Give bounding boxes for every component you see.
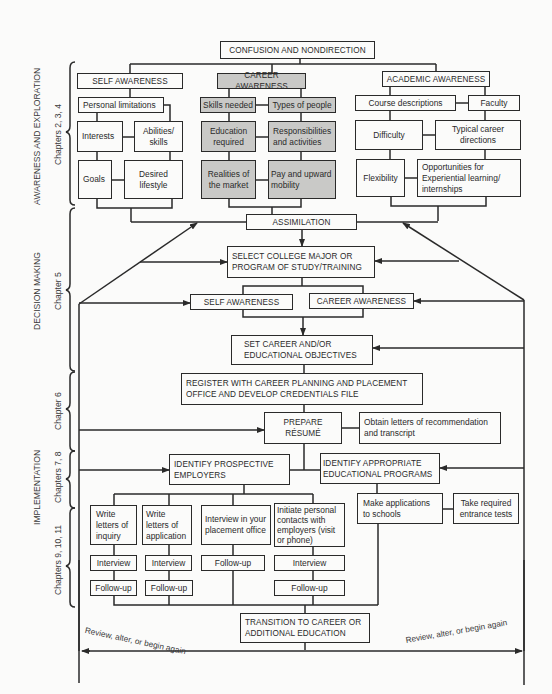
chapter-label-7-8: Chapters 7, 8 bbox=[53, 451, 63, 503]
abilities-box: Abilities/ skills bbox=[134, 121, 183, 152]
phase-label-implementation: IMPLEMENTATION bbox=[32, 450, 42, 525]
typical-career-box: Typical career directions bbox=[435, 120, 521, 150]
interview-box-1: Interview bbox=[90, 555, 137, 571]
take-tests-box: Take required entrance tests bbox=[453, 493, 519, 524]
pay-mobility-box: Pay and upward mobility bbox=[268, 160, 336, 199]
follow-up-box-4: Follow-up bbox=[274, 580, 345, 596]
flexibility-box: Flexibility bbox=[356, 159, 405, 197]
obtain-letters-box: Obtain letters of recommendation and tra… bbox=[359, 412, 501, 444]
prepare-resume-box: PREPARE RÉSUMÉ bbox=[264, 412, 342, 444]
chapter-label-9-10-11: Chapters 9, 10, 11 bbox=[53, 525, 63, 595]
academic-awareness-box: ACADEMIC AWARENESS bbox=[382, 71, 490, 87]
write-application-box: Write letters of application bbox=[142, 505, 192, 545]
set-objectives-box: SET CAREER AND/OR EDUCATIONAL OBJECTIVES bbox=[231, 335, 373, 365]
initiate-contacts-box: Initiate personal contacts with employer… bbox=[274, 503, 345, 547]
assimilation-box: ASSIMILATION bbox=[246, 214, 357, 230]
goals-box: Goals bbox=[78, 160, 112, 199]
interests-box: Interests bbox=[77, 121, 123, 152]
chapter-label-5: Chapter 5 bbox=[53, 272, 63, 310]
identify-employers-box: IDENTIFY PROSPECTIVE EMPLOYERS bbox=[169, 454, 290, 485]
realities-box: Realities of the market bbox=[201, 160, 256, 199]
follow-up-box-3: Follow-up bbox=[201, 555, 265, 571]
interview-box-4: Interview bbox=[274, 555, 345, 571]
identify-programs-box: IDENTIFY APPROPRIATE EDUCATIONAL PROGRAM… bbox=[320, 453, 440, 484]
follow-up-box-1: Follow-up bbox=[90, 580, 137, 596]
opportunities-box: Opportunities for Experiential learning/… bbox=[417, 159, 521, 197]
make-applications-box: Make applications to schools bbox=[357, 493, 443, 524]
career-planning-flowchart: AWARENESS AND EXPLORATION Chapters 2, 3,… bbox=[0, 0, 552, 694]
career-awareness-2-box: CAREER AWARENESS bbox=[309, 293, 414, 309]
transition-box: TRANSITION TO CAREER OR ADDITIONAL EDUCA… bbox=[240, 613, 370, 643]
chapter-label-2-3-4: Chapters 2, 3, 4 bbox=[53, 104, 63, 165]
self-awareness-2-box: SELF AWARENESS bbox=[190, 294, 293, 310]
faculty-box: Faculty bbox=[468, 95, 520, 111]
chapter-label-6: Chapter 6 bbox=[53, 392, 63, 430]
types-of-people-box: Types of people bbox=[268, 97, 336, 113]
confusion-box: CONFUSION AND NONDIRECTION bbox=[220, 41, 375, 59]
register-box: REGISTER WITH CAREER PLANNING AND PLACEM… bbox=[181, 373, 423, 405]
follow-up-box-2: Follow-up bbox=[145, 580, 193, 596]
responsibilities-box: Responsibilities and activities bbox=[268, 121, 336, 152]
difficulty-box: Difficulty bbox=[355, 120, 423, 150]
career-awareness-box: CAREER AWARENESS bbox=[217, 73, 306, 89]
phase-label-decision: DECISION MAKING bbox=[32, 252, 42, 330]
course-descriptions-box: Course descriptions bbox=[355, 95, 456, 111]
self-awareness-box: SELF AWARENESS bbox=[77, 73, 183, 89]
phase-label-awareness: AWARENESS AND EXPLORATION bbox=[32, 68, 42, 205]
personal-limitations-box: Personal limitations bbox=[78, 97, 164, 113]
interview-box-2: Interview bbox=[145, 555, 192, 571]
desired-lifestyle-box: Desired lifestyle bbox=[124, 160, 183, 199]
education-required-box: Education required bbox=[201, 121, 256, 152]
select-major-box: SELECT COLLEGE MAJOR OR PROGRAM OF STUDY… bbox=[227, 246, 375, 278]
interview-placement-box: Interview in your placement office bbox=[201, 505, 271, 545]
skills-needed-box: Skills needed bbox=[200, 97, 256, 113]
write-inquiry-box: Write letters of inquiry bbox=[90, 505, 137, 545]
